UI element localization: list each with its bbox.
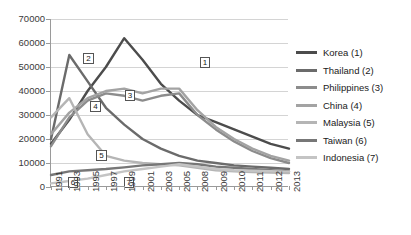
series-callout-2: 2 xyxy=(83,53,93,64)
x-axis-tick-label: 2010 xyxy=(237,171,247,192)
x-axis-tick-label: 1993 xyxy=(72,171,82,192)
legend-item[interactable]: Malaysia (5) xyxy=(296,114,408,132)
x-axis-tick xyxy=(179,186,180,190)
series-callout-4: 4 xyxy=(90,101,100,112)
legend-swatch-icon xyxy=(296,51,317,54)
x-axis-tick-label: 2003 xyxy=(164,171,174,192)
x-axis-tick xyxy=(88,186,89,190)
y-axis-tick-label: 30000 xyxy=(0,110,45,120)
x-axis-tick-label: 1997 xyxy=(109,171,119,192)
series-line xyxy=(51,89,289,161)
legend-swatch-icon xyxy=(296,139,317,142)
x-axis-tick xyxy=(106,186,107,190)
series-callout-3: 3 xyxy=(125,90,135,101)
legend-swatch-icon xyxy=(296,121,317,124)
legend-label: Korea (1) xyxy=(323,47,363,58)
x-axis-tick-label: 1995 xyxy=(91,171,101,192)
legend-item[interactable]: Taiwan (6) xyxy=(296,132,408,150)
y-axis-tick-label: 10000 xyxy=(0,158,45,168)
legend-label: China (4) xyxy=(323,100,362,111)
x-axis-tick xyxy=(143,186,144,190)
x-axis-tick-label: 2001 xyxy=(146,171,156,192)
legend-swatch-icon xyxy=(296,69,317,72)
line-chart: 010000200003000040000500006000070000 214… xyxy=(0,0,411,235)
x-axis-tick-label: 2011 xyxy=(255,172,265,192)
series-line xyxy=(51,98,289,173)
legend-label: Philippines (3) xyxy=(323,82,383,93)
x-axis-tick xyxy=(289,186,290,190)
legend-label: Indonesia (7) xyxy=(323,152,378,163)
y-axis-tick-label: 40000 xyxy=(0,86,45,96)
legend-swatch-icon xyxy=(296,86,317,89)
legend-label: Thailand (2) xyxy=(323,65,374,76)
x-axis-tick xyxy=(271,186,272,190)
x-axis-tick xyxy=(216,186,217,190)
x-axis-tick xyxy=(234,186,235,190)
x-axis-tick xyxy=(161,186,162,190)
y-axis-tick-label: 20000 xyxy=(0,134,45,144)
y-axis-tick-label: 50000 xyxy=(0,62,45,72)
y-axis-tick-label: 60000 xyxy=(0,38,45,48)
chart-legend: Korea (1)Thailand (2)Philippines (3)Chin… xyxy=(296,44,408,167)
x-axis-tick-label: 2005 xyxy=(182,171,192,192)
y-axis-tick-label: 0 xyxy=(0,182,45,192)
legend-label: Taiwan (6) xyxy=(323,135,367,146)
x-axis-tick-label: 2008 xyxy=(200,171,210,192)
legend-swatch-icon xyxy=(296,156,317,159)
legend-swatch-icon xyxy=(296,104,317,107)
legend-item[interactable]: Thailand (2) xyxy=(296,62,408,80)
x-axis-tick-label: 1999 xyxy=(127,171,137,192)
x-axis-tick-label: 2012 xyxy=(274,171,284,192)
legend-item[interactable]: Philippines (3) xyxy=(296,79,408,97)
legend-item[interactable]: China (4) xyxy=(296,97,408,115)
series-callout-1: 1 xyxy=(200,57,210,68)
x-axis-tick-label: 2013 xyxy=(292,171,302,192)
legend-item[interactable]: Korea (1) xyxy=(296,44,408,62)
series-callout-5: 5 xyxy=(96,150,106,161)
legend-item[interactable]: Indonesia (7) xyxy=(296,149,408,167)
plot-area: 2143567 xyxy=(50,19,288,187)
x-axis-tick xyxy=(51,186,52,190)
y-axis-tick-label: 70000 xyxy=(0,14,45,24)
x-axis-tick-label: 1991 xyxy=(54,171,64,192)
x-axis-tick-label: 2009 xyxy=(219,171,229,192)
series-lines xyxy=(51,19,289,187)
legend-label: Malaysia (5) xyxy=(323,117,375,128)
